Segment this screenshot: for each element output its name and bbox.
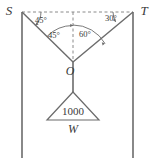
load-symbol-label: W [68, 122, 79, 136]
angle-label-junction-right: 60° [79, 29, 91, 39]
angle-label-junction-left: 45° [48, 30, 60, 40]
right-support-label: T [140, 3, 148, 18]
left-support-label: S [6, 3, 13, 18]
statics-diagram: S T O 45° 45° 60° 30° 1000 W [0, 0, 152, 164]
junction-label: O [66, 64, 75, 78]
angle-label-right-support: 30° [105, 13, 117, 23]
load-magnitude-label: 1000 [62, 105, 85, 117]
angle-label-left-support: 45° [35, 15, 47, 25]
